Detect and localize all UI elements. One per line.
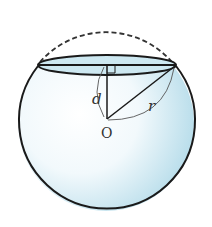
sphere-diagram: d r O <box>0 0 212 227</box>
label-d: d <box>92 90 102 108</box>
label-center-O: O <box>101 125 112 141</box>
label-r: r <box>148 97 156 115</box>
